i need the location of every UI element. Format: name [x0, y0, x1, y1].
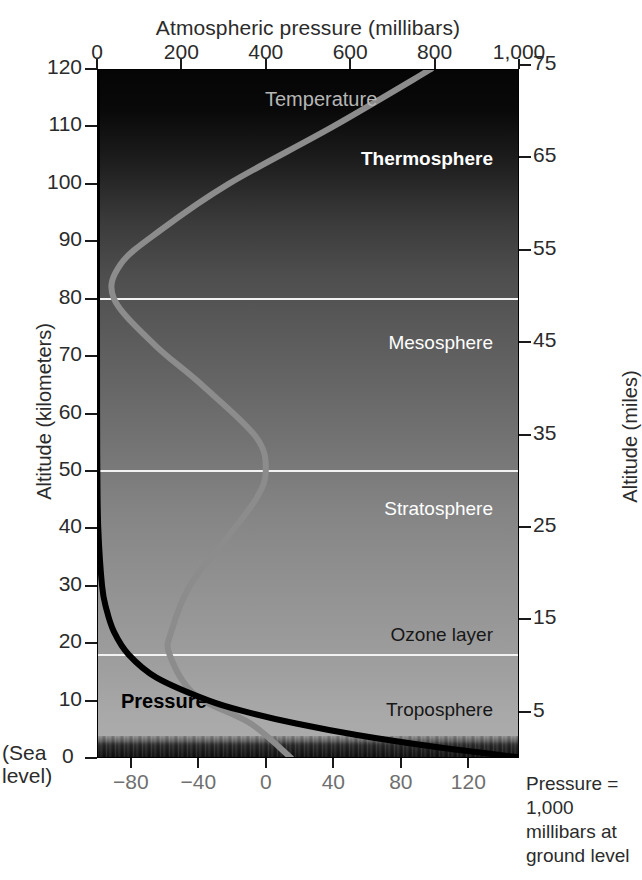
- altitude-km-tick-120: 120: [8, 55, 82, 79]
- altitude-km-tickmark-50: [85, 470, 97, 472]
- atmosphere-chart-figure: Atmospheric pressure (millibars) 0200400…: [0, 0, 642, 880]
- altitude-km-tick-100: 100: [8, 170, 82, 194]
- sea-level-annotation: (Sea level): [2, 742, 58, 787]
- temperature-tickmark--80: [130, 758, 132, 768]
- altitude-km-tickmark-100: [85, 183, 97, 185]
- altitude-km-tickmark-60: [85, 413, 97, 415]
- altitude-km-tick-20: 20: [8, 629, 82, 653]
- temperature-tickmark-80: [400, 758, 402, 768]
- altitude-miles-tick-55: 55: [533, 236, 603, 260]
- altitude-km-tickmark-110: [85, 125, 97, 127]
- altitude-km-tickmark-20: [85, 642, 97, 644]
- altitude-miles-tick-45: 45: [533, 328, 603, 352]
- layer-label-mesosphere: Mesosphere: [388, 332, 493, 354]
- pressure-tickmark-200: [180, 59, 182, 69]
- temperature-curve-label: Temperature: [265, 88, 377, 111]
- temperature-curve: [111, 69, 431, 758]
- altitude-km-tick-0: 0: [62, 744, 74, 768]
- left-axis-title: Altitude (kilometers): [33, 292, 56, 532]
- altitude-miles-tickmark-5: [519, 711, 531, 713]
- altitude-km-tickmark-120: [85, 68, 97, 70]
- altitude-miles-tickmark-45: [519, 341, 531, 343]
- plot-area: ThermosphereMesosphereStratosphereOzone …: [97, 69, 519, 758]
- pressure-curve-label: Pressure: [121, 690, 207, 713]
- temperature-tickmark-0: [265, 758, 267, 768]
- altitude-miles-tick-65: 65: [533, 143, 603, 167]
- layer-label-ozone-layer: Ozone layer: [391, 624, 493, 646]
- pressure-curve: [97, 69, 519, 758]
- pressure-tickmark-600: [349, 59, 351, 69]
- altitude-miles-tickmark-35: [519, 434, 531, 436]
- altitude-km-tickmark-30: [85, 585, 97, 587]
- layer-label-stratosphere: Stratosphere: [384, 498, 493, 520]
- altitude-km-tick-30: 30: [8, 572, 82, 596]
- altitude-km-tickmark-0: [85, 757, 97, 759]
- altitude-miles-tickmark-15: [519, 618, 531, 620]
- top-axis-title: Atmospheric pressure (millibars): [97, 16, 519, 40]
- right-axis-title: Altitude (miles): [619, 322, 642, 552]
- curves-overlay: [97, 69, 519, 758]
- altitude-km-tickmark-40: [85, 527, 97, 529]
- pressure-tickmark-400: [265, 59, 267, 69]
- pressure-ground-note: Pressure = 1,000 millibars at ground lev…: [526, 772, 642, 868]
- altitude-miles-tick-15: 15: [533, 605, 603, 629]
- altitude-miles-tick-25: 25: [533, 513, 603, 537]
- altitude-miles-tick-5: 5: [533, 698, 603, 722]
- temperature-tick-120: 120: [420, 770, 516, 794]
- altitude-km-tickmark-80: [85, 298, 97, 300]
- altitude-miles-tickmark-75: [519, 64, 531, 66]
- pressure-tickmark-800: [434, 59, 436, 69]
- temperature-tickmark-40: [332, 758, 334, 768]
- altitude-km-tickmark-70: [85, 355, 97, 357]
- altitude-km-tickmark-90: [85, 240, 97, 242]
- altitude-miles-tickmark-65: [519, 156, 531, 158]
- altitude-miles-tickmark-25: [519, 526, 531, 528]
- altitude-miles-tickmark-55: [519, 249, 531, 251]
- temperature-tickmark--40: [197, 758, 199, 768]
- layer-label-thermosphere: Thermosphere: [361, 148, 493, 170]
- altitude-km-tick-10: 10: [8, 687, 82, 711]
- altitude-km-tick-90: 90: [8, 227, 82, 251]
- altitude-miles-tick-35: 35: [533, 421, 603, 445]
- sea-level-line-1: (Sea: [2, 742, 58, 765]
- sea-level-line-2: level): [2, 765, 58, 788]
- altitude-km-tick-110: 110: [8, 112, 82, 136]
- altitude-km-tickmark-10: [85, 700, 97, 702]
- altitude-miles-tick-75: 75: [533, 51, 603, 75]
- temperature-tickmark-120: [467, 758, 469, 768]
- layer-label-troposphere: Troposphere: [386, 699, 493, 721]
